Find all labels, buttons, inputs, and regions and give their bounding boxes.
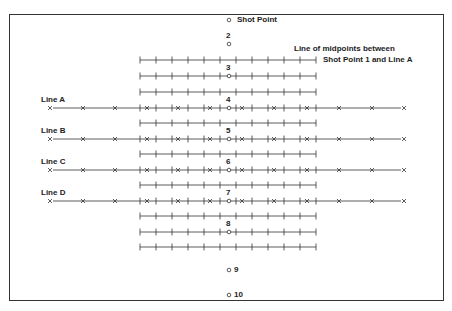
shot-number-8: 8 [226,219,230,228]
shot-point-circle-icon [227,18,231,22]
shot-number-4: 4 [226,95,230,104]
shot-point-circle-icon [227,106,231,110]
shot-point-label: Shot Point [237,15,277,24]
shot-point-circle-icon [227,74,231,78]
line-c-label: Line C [41,157,65,166]
shot-number-7: 7 [226,188,230,197]
shot-number-9: 9 [234,265,238,274]
shot-number-6: 6 [226,157,230,166]
shot-point-circle-icon [227,137,231,141]
midpoint-note-line1: Line of midpoints between [294,44,395,53]
midpoint-note-line2: Shot Point 1 and Line A [323,55,412,64]
shot-number-5: 5 [226,126,230,135]
line-d-label: Line D [41,188,65,197]
shot-point-circle-icon [227,268,231,272]
shot-point-circle-icon [227,293,231,297]
shot-number-3: 3 [226,63,230,72]
shot-point-circle-icon [227,199,231,203]
shot-point-circle-icon [227,168,231,172]
shot-point-circle-icon [227,230,231,234]
line-b-label: Line B [41,126,65,135]
shot-number-2: 2 [226,31,230,40]
shot-number-10: 10 [234,290,243,299]
line-a-label: Line A [41,95,65,104]
shot-point-circle-icon [227,42,231,46]
